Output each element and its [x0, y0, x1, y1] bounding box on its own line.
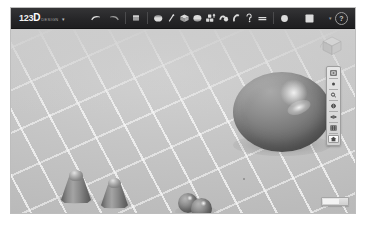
- cone-cap: [69, 170, 83, 181]
- toolbar-separator: [147, 12, 148, 24]
- sphere-front[interactable]: [191, 198, 212, 213]
- progress-bar-fill: [323, 199, 339, 204]
- progress-bar-icon[interactable]: [321, 197, 349, 206]
- nav-separator: [329, 89, 338, 90]
- nav-separator: [329, 78, 338, 79]
- zoom-magnifier-icon[interactable]: [328, 91, 339, 99]
- material-sphere-icon[interactable]: [278, 11, 291, 26]
- text-tool-icon[interactable]: [256, 11, 269, 26]
- grouping-combine-icon[interactable]: [217, 11, 230, 26]
- app-logo[interactable]: 123D DESIGN ▾: [19, 13, 65, 23]
- toolbar-separator: [125, 12, 126, 24]
- logo-text-123: 123: [19, 14, 33, 23]
- nav-separator: [329, 133, 338, 134]
- nav-separator: [329, 122, 338, 123]
- look-at-eye-icon[interactable]: [328, 113, 339, 121]
- toolbar-separator: [273, 12, 274, 24]
- snap-grid-icon[interactable]: [302, 11, 318, 26]
- fit-to-screen-icon[interactable]: [328, 69, 339, 77]
- pattern-array-icon[interactable]: [204, 11, 217, 26]
- logo-text-d: D: [33, 13, 40, 23]
- combine-boolean-icon[interactable]: [230, 11, 243, 26]
- cone-right[interactable]: [101, 178, 128, 208]
- primitives-box-icon[interactable]: [152, 11, 165, 26]
- home-house-icon[interactable]: [328, 135, 339, 143]
- redo-arrow-icon[interactable]: [108, 11, 121, 26]
- 3d-viewport[interactable]: [11, 30, 355, 213]
- nav-separator: [329, 111, 338, 112]
- cone-body: [101, 185, 128, 208]
- nav-separator: [329, 100, 338, 101]
- specular-highlight: [285, 97, 312, 118]
- toolbar-group-material: [278, 8, 291, 28]
- view-navigation-toolbar: [326, 66, 341, 146]
- ellipsoid-large[interactable]: [233, 72, 331, 152]
- toolbar-group-snap: [302, 8, 318, 28]
- chevron-down-icon[interactable]: ▾: [329, 15, 332, 21]
- cone-cap: [108, 178, 121, 188]
- cone-left[interactable]: [61, 170, 91, 203]
- toolbar-group-modeling: [152, 8, 269, 28]
- logo-text-design: DESIGN: [41, 18, 58, 22]
- construct-extrude-icon[interactable]: [178, 11, 191, 26]
- toolbar-group-transform: [130, 8, 143, 28]
- modify-fillet-icon[interactable]: [191, 11, 204, 26]
- undo-arrow-icon[interactable]: [89, 11, 102, 26]
- origin-marker: [243, 178, 245, 180]
- sketch-pencil-icon[interactable]: [165, 11, 178, 26]
- display-grid-icon[interactable]: [328, 124, 339, 132]
- viewcube-icon[interactable]: [318, 33, 346, 59]
- orbit-rotate-icon[interactable]: [328, 102, 339, 110]
- transform-move-icon[interactable]: [130, 11, 143, 26]
- main-toolbar: 123D DESIGN ▾: [11, 8, 355, 29]
- app-window: 123D DESIGN ▾: [11, 8, 355, 213]
- toolbar-group-history: [89, 8, 121, 28]
- chevron-down-icon[interactable]: ▾: [62, 17, 65, 22]
- cone-body: [61, 177, 91, 203]
- measure-ruler-icon[interactable]: [243, 11, 256, 26]
- pan-hand-icon[interactable]: [328, 80, 339, 88]
- help-question-icon[interactable]: ?: [335, 12, 348, 25]
